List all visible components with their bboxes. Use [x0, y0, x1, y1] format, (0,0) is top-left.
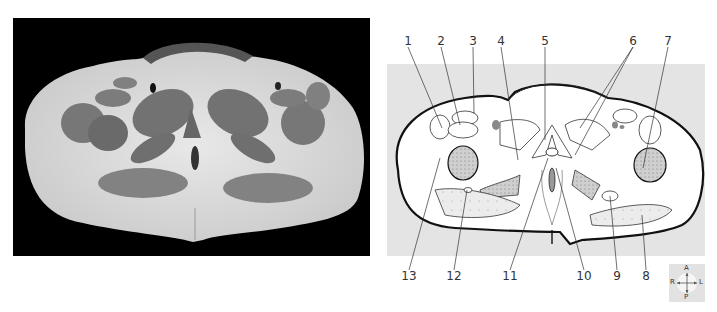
label-8: 8 — [642, 270, 650, 282]
label-11: 11 — [502, 270, 517, 282]
label-3: 3 — [469, 35, 477, 47]
orientation-compass: A P R L — [669, 264, 705, 302]
label-1: 1 — [404, 35, 412, 47]
compass-anterior: A — [684, 265, 689, 272]
label-7: 7 — [664, 35, 672, 47]
photo-section-image — [13, 18, 370, 256]
label-2: 2 — [437, 35, 445, 47]
labeled-diagram: 1 2 3 4 5 6 7 13 12 11 10 9 8 — [360, 0, 717, 312]
label-12: 12 — [446, 270, 461, 282]
compass-right: R — [670, 279, 675, 286]
compass-posterior: P — [684, 294, 688, 301]
cross-section-photo — [13, 18, 370, 256]
label-13: 13 — [401, 270, 416, 282]
label-4: 4 — [497, 35, 505, 47]
label-5: 5 — [541, 35, 549, 47]
label-9: 9 — [613, 270, 621, 282]
label-6: 6 — [629, 35, 637, 47]
compass-left: L — [699, 279, 703, 286]
label-10: 10 — [576, 270, 591, 282]
